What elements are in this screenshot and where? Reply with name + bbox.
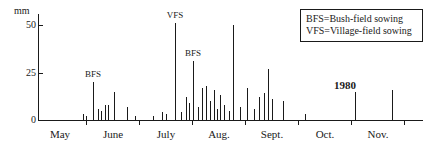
rainfall-bar	[283, 101, 284, 120]
rainfall-bar	[114, 92, 115, 121]
y-tick-label-25: 25	[26, 68, 36, 78]
rainfall-bar	[259, 97, 260, 120]
x-tick-1	[139, 121, 140, 125]
rainfall-bar	[98, 109, 99, 120]
x-tick-2	[192, 121, 193, 125]
y-tick-label-50: 50	[26, 20, 36, 30]
rainfall-bar	[355, 92, 356, 121]
rainfall-bar	[214, 90, 215, 120]
rainfall-bar	[264, 93, 265, 120]
x-month-label-may: May	[50, 128, 70, 140]
rainfall-bar	[101, 111, 102, 121]
rainfall-bar	[135, 116, 136, 120]
x-tick-3	[245, 121, 246, 125]
y-axis-line	[38, 14, 39, 121]
rainfall-bar	[153, 116, 154, 120]
rainfall-bar	[162, 112, 163, 120]
rainfall-bar	[166, 114, 167, 120]
x-month-label-june: June	[103, 128, 123, 140]
y-tick-50	[39, 25, 43, 26]
sowing-label-vfs-1: VFS	[167, 11, 184, 20]
rainfall-bar	[247, 88, 248, 120]
rainfall-bar	[105, 105, 106, 120]
rainfall-bar	[254, 109, 255, 120]
rainfall-bar	[83, 114, 84, 120]
rainfall-bar	[127, 107, 128, 120]
rainfall-bar	[272, 99, 273, 120]
year-label: 1980	[334, 80, 356, 91]
y-tick-label-0: 0	[31, 115, 36, 125]
rainfall-bar	[108, 105, 109, 120]
rainfall-chart: mm 50250 MayJuneJulyAug.Sept.Oct.Nov. BF…	[0, 0, 431, 152]
x-month-label-sept: Sept.	[261, 128, 283, 140]
rainfall-bar	[206, 86, 207, 120]
x-month-label-aug: Aug.	[208, 128, 230, 140]
rainfall-bar	[268, 69, 269, 120]
x-month-label-nov: Nov.	[368, 128, 389, 140]
legend-line-vfs: VFS=Village-field sowing	[306, 25, 417, 37]
rainfall-bar	[175, 23, 176, 120]
rainfall-bar	[193, 61, 194, 120]
x-tick-5	[351, 121, 352, 125]
rainfall-bar	[233, 25, 234, 120]
rainfall-bar	[186, 97, 187, 120]
x-axis-line	[38, 120, 423, 121]
legend-line-bfs: BFS=Bush-field sowing	[306, 13, 417, 25]
rainfall-bar	[210, 101, 211, 120]
rainfall-bar	[189, 103, 190, 120]
rainfall-bar	[240, 107, 241, 120]
sowing-label-bfs-2: BFS	[185, 49, 201, 58]
x-tick-6	[404, 121, 405, 125]
rainfall-bar	[181, 112, 182, 120]
x-month-label-oct: Oct.	[316, 128, 335, 140]
rainfall-bar	[217, 109, 218, 120]
rainfall-bar	[229, 111, 230, 121]
x-tick-0	[86, 121, 87, 125]
rainfall-bar	[202, 88, 203, 120]
rainfall-bar	[93, 82, 94, 120]
legend-box: BFS=Bush-field sowing VFS=Village-field …	[300, 9, 423, 42]
x-tick-4	[298, 121, 299, 125]
y-tick-25	[39, 73, 43, 74]
y-axis-unit-label: mm	[14, 6, 30, 16]
rainfall-bar	[220, 95, 221, 120]
rainfall-bar	[198, 107, 199, 120]
rainfall-bar	[305, 114, 306, 120]
rainfall-bar	[224, 105, 225, 120]
x-month-label-july: July	[157, 128, 175, 140]
rainfall-bar	[392, 90, 393, 120]
sowing-label-bfs-0: BFS	[85, 70, 101, 79]
rainfall-bar	[86, 116, 87, 120]
